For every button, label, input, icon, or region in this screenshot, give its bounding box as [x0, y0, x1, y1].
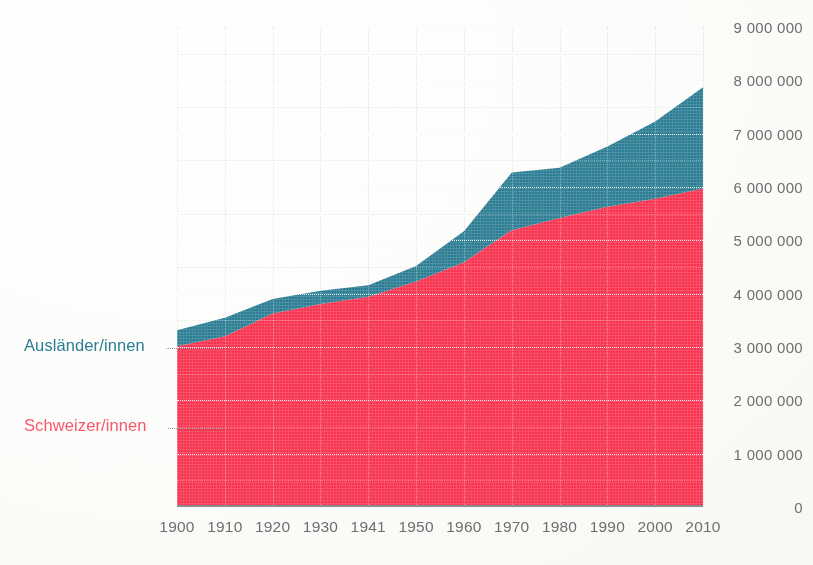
y-axis-tick-label: 0 — [713, 499, 803, 516]
y-axis-tick-label: 8 000 000 — [713, 72, 803, 89]
x-axis-baseline — [177, 505, 703, 507]
area-series-swiss — [177, 189, 703, 507]
y-axis-tick-label: 7 000 000 — [713, 125, 803, 142]
gridline-major — [177, 507, 703, 508]
x-axis-tick-label: 1920 — [255, 518, 290, 536]
population-area-chart: 9 000 0008 000 0007 000 0006 000 0005 00… — [0, 0, 813, 565]
y-axis-tick-label: 9 000 000 — [713, 19, 803, 36]
y-axis-tick-label: 3 000 000 — [713, 339, 803, 356]
legend-leader-swiss — [168, 428, 223, 429]
x-axis-tick-label: 1930 — [303, 518, 338, 536]
y-axis-tick-label: 2 000 000 — [713, 392, 803, 409]
x-axis-tick-label: 2010 — [685, 518, 720, 536]
x-axis-tick-label: 1900 — [159, 518, 194, 536]
x-axis-tick-label: 2000 — [638, 518, 673, 536]
x-axis-tick-label: 1910 — [207, 518, 242, 536]
y-axis-tick-label: 4 000 000 — [713, 285, 803, 302]
y-axis-tick-label: 1 000 000 — [713, 445, 803, 462]
plot-area — [177, 27, 703, 507]
legend-label-swiss: Schweizer/innen — [24, 416, 147, 435]
x-axis-tick-label: 1980 — [542, 518, 577, 536]
x-axis-tick-label: 1960 — [446, 518, 481, 536]
x-axis-tick-label: 1950 — [398, 518, 433, 536]
stacked-area-series — [177, 27, 703, 507]
y-axis-tick-label: 6 000 000 — [713, 179, 803, 196]
y-axis-tick-label: 5 000 000 — [713, 232, 803, 249]
x-axis-tick-label: 1990 — [590, 518, 625, 536]
x-axis-tick-label: 1941 — [351, 518, 386, 536]
legend-leader-foreigners — [166, 348, 223, 349]
gridline-vertical — [703, 27, 704, 507]
x-axis-tick-label: 1970 — [494, 518, 529, 536]
legend-label-foreigners: Ausländer/innen — [24, 336, 145, 355]
